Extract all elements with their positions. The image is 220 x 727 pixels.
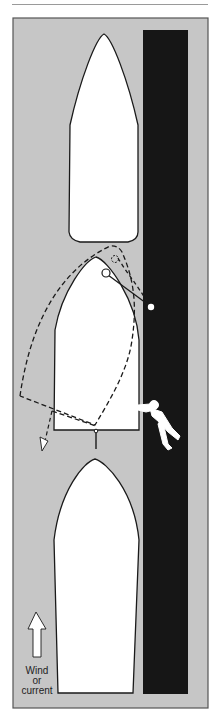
docking-diagram: [0, 0, 220, 727]
current-label: current: [17, 686, 57, 696]
dock: [143, 30, 188, 694]
dock-bollard-icon: [148, 304, 154, 310]
moored-boat-astern: [54, 459, 139, 693]
stern-post-icon: [94, 429, 98, 433]
bow-cleat-icon: [102, 269, 110, 277]
